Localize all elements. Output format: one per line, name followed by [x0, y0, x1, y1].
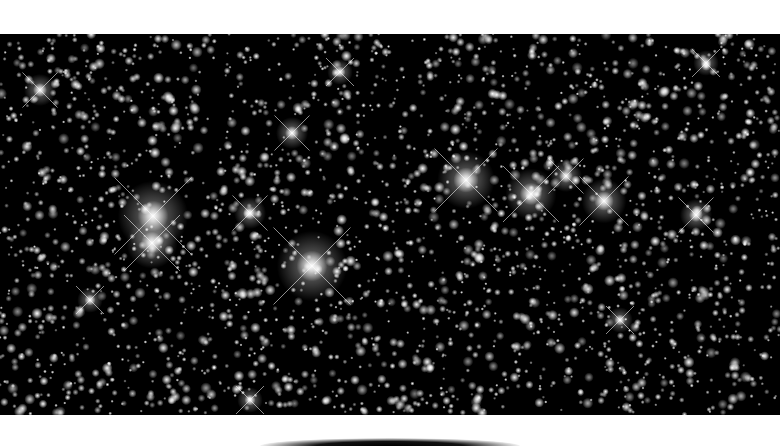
starfield-image — [0, 34, 780, 415]
bottom-edge-shadow — [260, 438, 520, 446]
starfield-canvas — [0, 34, 780, 415]
